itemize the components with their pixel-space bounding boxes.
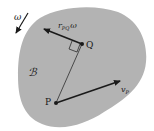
point-p-label: P xyxy=(45,97,51,107)
relative-velocity-suffix: ω xyxy=(70,21,77,30)
point-q-label: Q xyxy=(86,40,93,50)
rigid-body-diagram: ω ℬ rPQω Q vP P xyxy=(0,0,154,131)
point-q xyxy=(80,42,84,46)
velocity-p-subscript: P xyxy=(125,89,130,95)
omega-label: ω xyxy=(14,12,22,22)
rigid-body-shape xyxy=(18,7,146,127)
point-p xyxy=(54,101,58,105)
angular-velocity-indicator: ω xyxy=(14,12,28,33)
relative-velocity-subscript: PQ xyxy=(61,25,69,31)
body-label: ℬ xyxy=(28,66,38,79)
